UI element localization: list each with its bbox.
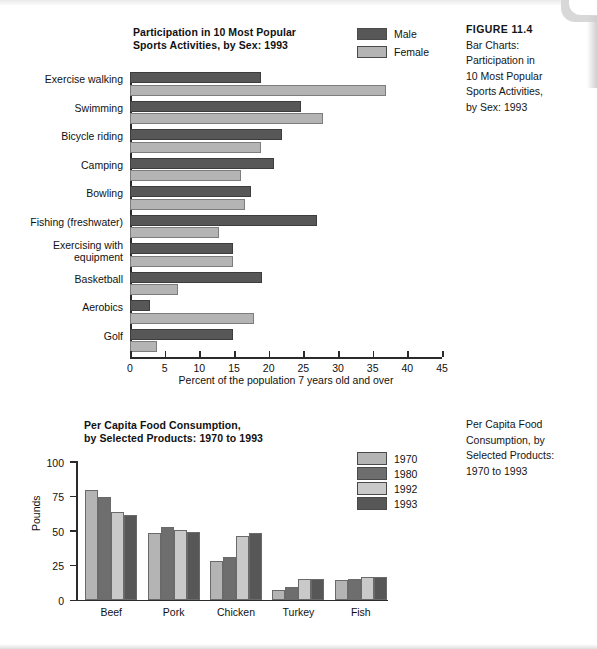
food-plot-area: 0255075100BeefPorkChickenTurkeyFish (76, 461, 388, 601)
x-tick-label: 45 (436, 362, 448, 374)
bar-female (130, 313, 254, 324)
bar-1970 (148, 533, 161, 599)
category-label: Fishing (freshwater) (3, 217, 123, 229)
chart-title-food: Per Capita Food Consumption, by Selected… (84, 419, 263, 445)
bar-1980 (161, 527, 174, 599)
chart-title-sports: Participation in 10 Most Popular Sports … (133, 26, 296, 52)
bar-group-fish: Fish (335, 460, 387, 600)
legend-label-female: Female (394, 46, 429, 58)
x-tick-label: 30 (332, 362, 344, 374)
bar-1970 (85, 490, 98, 599)
group-label: Fish (335, 606, 387, 618)
legend-swatch-female (357, 46, 387, 58)
category-label: Exercising with equipment (3, 240, 123, 263)
y-axis-line-food (76, 461, 78, 601)
x-tick-label: 25 (297, 362, 309, 374)
bar-1993 (311, 579, 324, 600)
y-tick-label: 0 (58, 595, 64, 607)
figure-caption-heading: FIGURE 11.4 (466, 22, 586, 38)
y-tick (70, 600, 76, 602)
bar-male (130, 129, 282, 140)
bar-1993 (374, 577, 387, 599)
x-tick-label: 15 (228, 362, 240, 374)
x-tick (199, 351, 201, 357)
category-label: Golf (3, 331, 123, 343)
x-tick-label: 10 (193, 362, 205, 374)
x-tick-label: 5 (162, 362, 168, 374)
y-tick (70, 496, 76, 498)
bar-group-chicken: Chicken (210, 460, 262, 600)
y-tick-label: 75 (52, 491, 64, 503)
bar-male (130, 72, 261, 83)
bar-male (130, 186, 251, 197)
x-tick (269, 351, 271, 357)
x-tick (338, 351, 340, 357)
x-tick (130, 351, 132, 357)
y-tick-label: 100 (46, 457, 64, 469)
figure-caption-2: Per Capita Food Consumption, by Selected… (466, 417, 588, 479)
legend-swatch-male (357, 28, 387, 40)
food-consumption-chart: Per Capita Food Consumption, by Selected… (0, 400, 460, 649)
x-tick-label: 20 (263, 362, 275, 374)
bar-1970 (272, 590, 285, 600)
bar-1992 (111, 512, 124, 599)
scan-corner-inner (569, 0, 597, 15)
x-tick (165, 351, 167, 357)
bar-female (130, 142, 261, 153)
sports-plot-area: Exercise walkingSwimmingBicycle ridingCa… (130, 72, 442, 357)
legend-label-1970: 1970 (394, 453, 417, 465)
legend-label-1992: 1992 (394, 483, 417, 495)
bar-male (130, 243, 233, 254)
group-label: Chicken (210, 606, 262, 618)
bar-female (130, 113, 323, 124)
category-label: Exercise walking (3, 74, 123, 86)
x-tick-label: 35 (367, 362, 379, 374)
bar-female (130, 85, 386, 96)
group-label: Beef (85, 606, 137, 618)
scan-shadow-right (587, 16, 597, 88)
bar-female (130, 284, 178, 295)
bar-1992 (361, 577, 374, 599)
bar-1980 (223, 557, 236, 600)
x-axis-sports: 051015202530354045 (130, 357, 442, 359)
x-tick (442, 351, 444, 357)
group-label: Turkey (272, 606, 324, 618)
legend-label-1980: 1980 (394, 468, 417, 480)
bar-1992 (236, 536, 249, 600)
bar-1993 (249, 533, 262, 599)
category-label: Bowling (3, 188, 123, 200)
bar-1970 (210, 561, 223, 600)
bar-1993 (124, 515, 137, 599)
category-label: Camping (3, 160, 123, 172)
bar-female (130, 227, 219, 238)
x-tick (303, 351, 305, 357)
x-tick-label: 40 (401, 362, 413, 374)
legend-item-female: Female (357, 45, 429, 59)
bar-group-beef: Beef (85, 460, 137, 600)
bar-female (130, 341, 157, 352)
bar-male (130, 329, 233, 340)
x-axis-label-sports: Percent of the population 7 years old an… (130, 374, 442, 386)
y-axis-label-food: Pounds (30, 495, 42, 531)
figure-caption-2-body: Per Capita Food Consumption, by Selected… (466, 417, 588, 479)
bar-male (130, 272, 262, 283)
bar-1980 (285, 587, 298, 599)
category-label: Aerobics (3, 302, 123, 314)
y-tick-label: 50 (52, 526, 64, 538)
bar-group-pork: Pork (148, 460, 200, 600)
x-tick (373, 351, 375, 357)
bar-male (130, 158, 274, 169)
y-tick-label: 25 (52, 560, 64, 572)
bar-1992 (174, 530, 187, 599)
bar-male (130, 300, 150, 311)
bar-1970 (335, 580, 348, 599)
bar-female (130, 199, 245, 210)
bar-1992 (298, 579, 311, 600)
bar-1980 (98, 497, 111, 599)
bar-1980 (348, 579, 361, 600)
bar-male (130, 215, 317, 226)
x-tick (407, 351, 409, 357)
legend-item-male: Male (357, 27, 429, 41)
legend-sports: Male Female (357, 27, 429, 59)
category-label: Basketball (3, 274, 123, 286)
